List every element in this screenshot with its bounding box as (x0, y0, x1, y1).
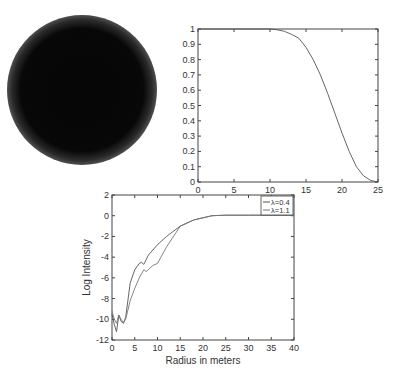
x-tick-label: 20 (198, 343, 208, 353)
x-tick-label: 40 (289, 343, 299, 353)
legend-label: λ=1.1 (271, 206, 290, 215)
x-tick-label: 5 (132, 343, 137, 353)
x-tick-label: 15 (301, 185, 311, 195)
y-tick-label: 0 (190, 177, 195, 187)
y-tick-label: 0.1 (182, 162, 195, 172)
y-tick-label: 0.3 (182, 131, 195, 141)
x-tick-label: 15 (175, 343, 185, 353)
x-tick-label: 0 (195, 185, 200, 195)
y-tick-label: -10 (96, 314, 109, 324)
y-tick-label: 0.6 (182, 85, 195, 95)
y-tick-label: 0.7 (182, 70, 195, 80)
x-tick-label: 25 (373, 185, 383, 195)
y-tick-label: 0.4 (182, 116, 195, 126)
y-tick-label: 0.5 (182, 101, 195, 111)
x-tick-label: 0 (109, 343, 114, 353)
plot-frame (112, 195, 294, 340)
y-tick-label: 2 (104, 190, 109, 200)
x-tick-label: 35 (266, 343, 276, 353)
x-tick-label: 10 (152, 343, 162, 353)
y-tick-label: -8 (101, 294, 109, 304)
y-tick-label: 0.2 (182, 146, 195, 156)
x-tick-label: 20 (337, 185, 347, 195)
top-plot-intensity-profile: 051015202500.10.20.30.40.50.60.70.80.91 (182, 24, 383, 195)
plots-canvas: 051015202500.10.20.30.40.50.60.70.80.910… (0, 0, 393, 374)
y-tick-label: 0 (104, 211, 109, 221)
y-tick-label: 0.8 (182, 55, 195, 65)
y-tick-label: -12 (96, 335, 109, 345)
legend: λ=0.4λ=1.1 (261, 196, 293, 215)
y-tick-label: 1 (190, 24, 195, 34)
y-tick-label: -4 (101, 252, 109, 262)
y-axis-label: Log Intensity (81, 239, 92, 296)
plot-frame (198, 29, 378, 182)
y-tick-label: 0.9 (182, 39, 195, 49)
x-tick-label: 25 (221, 343, 231, 353)
y-tick-label: -6 (101, 273, 109, 283)
x-tick-label: 10 (265, 185, 275, 195)
bottom-plot-log-intensity: 0510152025303540-12-10-8-6-4-202Radius i… (81, 190, 299, 366)
y-tick-label: -2 (101, 231, 109, 241)
x-tick-label: 5 (231, 185, 236, 195)
x-tick-label: 30 (243, 343, 253, 353)
x-axis-label: Radius in meters (165, 355, 240, 366)
